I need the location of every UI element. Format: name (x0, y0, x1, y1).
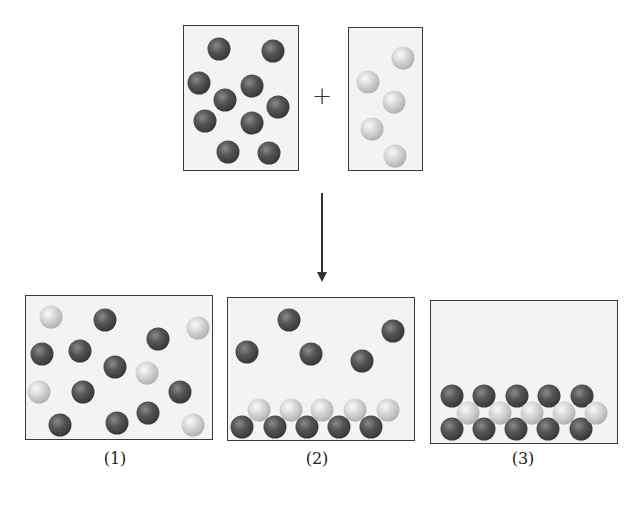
dark-particle (188, 72, 211, 95)
light-particle (28, 381, 51, 404)
option-3-label: (3) (512, 449, 535, 468)
light-particle (357, 71, 380, 94)
dark-particle (236, 341, 259, 364)
dark-particle (31, 343, 54, 366)
dark-particle (382, 320, 405, 343)
dark-particle (300, 343, 323, 366)
dark-particle (49, 414, 72, 437)
light-particle (377, 399, 400, 422)
light-particle (384, 145, 407, 168)
light-particle (361, 118, 384, 141)
light-particle (248, 399, 271, 422)
light-particle (521, 402, 544, 425)
dark-particle (267, 96, 290, 119)
light-particle (136, 362, 159, 385)
light-particle (182, 414, 205, 437)
plus-sign: + (312, 82, 332, 110)
dark-particle (169, 381, 192, 404)
light-particle (585, 402, 608, 425)
light-particle (457, 402, 480, 425)
dark-particle (241, 112, 264, 135)
dark-particle (94, 309, 117, 332)
option-1-label: (1) (104, 449, 127, 468)
dark-particle (217, 141, 240, 164)
dark-particle (231, 416, 254, 439)
light-particle (344, 399, 367, 422)
dark-particle (147, 328, 170, 351)
dark-particle (194, 110, 217, 133)
light-particle (489, 402, 512, 425)
dark-particle (258, 142, 281, 165)
arrow-head-icon (317, 272, 327, 282)
light-particle (383, 91, 406, 114)
dark-particle (241, 75, 264, 98)
dark-particle (137, 402, 160, 425)
dark-particle (72, 381, 95, 404)
light-particle (187, 317, 210, 340)
reaction-arrow-icon (321, 193, 323, 274)
dark-particle (262, 40, 285, 63)
dark-particle (351, 350, 374, 373)
dark-particle (214, 89, 237, 112)
dark-particle (278, 309, 301, 332)
option-2-label: (2) (306, 449, 329, 468)
dark-particle (69, 340, 92, 363)
light-particle (392, 47, 415, 70)
light-particle (553, 402, 576, 425)
dark-particle (360, 416, 383, 439)
light-particle (311, 399, 334, 422)
dark-particle (106, 412, 129, 435)
dark-particle (104, 356, 127, 379)
dark-particle (208, 38, 231, 61)
light-particle (40, 306, 63, 329)
light-particle (280, 399, 303, 422)
